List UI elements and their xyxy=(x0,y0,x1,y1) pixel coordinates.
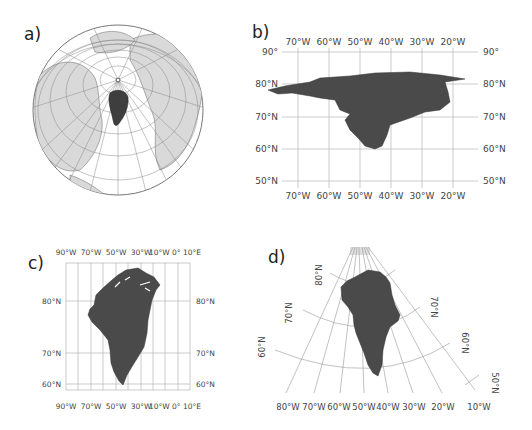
bottom-lon-0: 80°W xyxy=(276,402,300,412)
bottom-lon-2: 50°W xyxy=(348,191,373,201)
panel-d-conic: d) xyxy=(250,225,532,430)
left-lat-0: 80°N xyxy=(42,297,61,306)
bottom-lon-3: 40°W xyxy=(379,191,404,201)
bottom-lon-0: 90°W xyxy=(56,402,77,411)
right-lat-0: 70°N xyxy=(429,296,439,317)
left-lat-3: 60°N xyxy=(255,144,278,154)
top-lon-0: 70°W xyxy=(286,37,311,47)
bottom-lon-1: 60°W xyxy=(317,191,342,201)
globe-map xyxy=(0,0,230,215)
bottom-lon-2: 60°W xyxy=(327,402,351,412)
left-lat-1: 70°N xyxy=(42,349,61,358)
bottom-lon-5: 20°W xyxy=(441,191,466,201)
panel-b-equirectangular: b) 70°W 60°W 50°W 40°W 30°W 20°W 70°W 60… xyxy=(240,0,532,215)
top-lon-1: 70°W xyxy=(81,248,102,257)
left-lat-0: 80°N xyxy=(314,264,324,285)
left-lat-0: 90° xyxy=(262,47,278,57)
right-lat-4: 50°N xyxy=(483,176,506,186)
bottom-lon-2: 50°W xyxy=(106,402,127,411)
left-lat-4: 50°N xyxy=(255,176,278,186)
greenland-shape xyxy=(268,72,465,149)
left-lat-2: 70°N xyxy=(255,112,278,122)
right-lat-0: 90° xyxy=(483,47,499,57)
top-lon-5: 20°W xyxy=(441,37,466,47)
right-lat-2: 70°N xyxy=(483,112,506,122)
bottom-lon-4: 40°W xyxy=(376,402,400,412)
top-lon-3: 40°W xyxy=(379,37,404,47)
left-lat-2: 60°N xyxy=(257,336,267,357)
top-lon-2: 50°W xyxy=(106,248,127,257)
conic-map: 80°W 70°W 60°W 50°W 40°W 30°W 20°W 10°W … xyxy=(250,225,532,430)
top-lon-2: 50°W xyxy=(348,37,373,47)
bottom-lon-3: 50°W xyxy=(352,402,376,412)
right-lat-1: 60°N xyxy=(460,332,470,353)
bottom-lon-0: 70°W xyxy=(286,191,311,201)
stereo-map: 90°W 70°W 50°W 30°W 10°W 0° 10°E 90°W 70… xyxy=(0,225,250,430)
right-lat-2: 60°N xyxy=(196,380,215,389)
left-lat-1: 80°N xyxy=(255,79,278,89)
bottom-lon-5: 30°W xyxy=(402,402,426,412)
panel-c-stereographic: c) 90°W 70°W 50°W 30°W 10°W 0° xyxy=(0,225,250,430)
top-lon-4: 30°W xyxy=(410,37,435,47)
bottom-lon-1: 70°W xyxy=(302,402,326,412)
greenland-shape xyxy=(341,270,400,376)
right-lat-1: 70°N xyxy=(196,349,215,358)
right-lat-2: 50°N xyxy=(490,372,500,393)
bottom-lon-4: 10°W 0° 10°E xyxy=(149,402,201,411)
left-lat-1: 70°N xyxy=(284,302,294,323)
right-lat-0: 80°N xyxy=(196,297,215,306)
right-lat-1: 80°N xyxy=(483,79,506,89)
panel-a-globe: a) xyxy=(0,0,230,215)
greenland-shape xyxy=(88,268,160,385)
bottom-lon-6: 20°W xyxy=(431,402,455,412)
bottom-lon-1: 70°W xyxy=(81,402,102,411)
bottom-lon-4: 30°W xyxy=(410,191,435,201)
equirect-map: 70°W 60°W 50°W 40°W 30°W 20°W 70°W 60°W … xyxy=(240,0,532,215)
bottom-lon-7: 10°W xyxy=(467,402,491,412)
right-lat-3: 60°N xyxy=(483,144,506,154)
top-lon-1: 60°W xyxy=(317,37,342,47)
top-lon-0: 90°W xyxy=(56,248,77,257)
left-lat-2: 60°N xyxy=(42,380,61,389)
top-lon-4: 10°W 0° 10°E xyxy=(149,248,201,257)
